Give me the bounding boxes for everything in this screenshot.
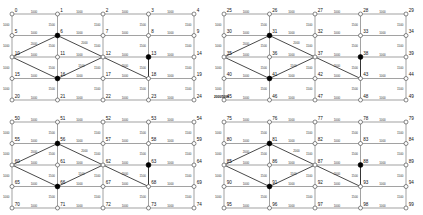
node-open[interactable] xyxy=(268,12,272,16)
node-open[interactable] xyxy=(222,185,226,189)
node-open[interactable] xyxy=(101,98,105,102)
node-open[interactable] xyxy=(192,55,196,59)
node-open[interactable] xyxy=(192,98,196,102)
node-open[interactable] xyxy=(313,142,317,146)
node-filled[interactable] xyxy=(146,55,151,60)
node-open[interactable] xyxy=(359,142,363,146)
node-open[interactable] xyxy=(192,163,196,167)
node-open[interactable] xyxy=(101,12,105,16)
node-open[interactable] xyxy=(56,55,60,59)
node-open[interactable] xyxy=(359,120,363,124)
node-open[interactable] xyxy=(56,120,60,124)
node-open[interactable] xyxy=(313,98,317,102)
node-open[interactable] xyxy=(313,206,317,210)
node-open[interactable] xyxy=(404,163,408,167)
node-open[interactable] xyxy=(359,206,363,210)
node-open[interactable] xyxy=(101,206,105,210)
node-open[interactable] xyxy=(268,206,272,210)
node-open[interactable] xyxy=(101,163,105,167)
node-open[interactable] xyxy=(147,34,151,38)
node-filled[interactable] xyxy=(55,76,60,81)
node-open[interactable] xyxy=(10,206,14,210)
node-open[interactable] xyxy=(10,98,14,102)
node-open[interactable] xyxy=(147,206,151,210)
node-open[interactable] xyxy=(404,120,408,124)
node-open[interactable] xyxy=(192,206,196,210)
node-open[interactable] xyxy=(404,55,408,59)
node-open[interactable] xyxy=(222,206,226,210)
node-open[interactable] xyxy=(359,34,363,38)
node-open[interactable] xyxy=(313,185,317,189)
node-open[interactable] xyxy=(313,12,317,16)
node-open[interactable] xyxy=(222,55,226,59)
node-open[interactable] xyxy=(147,185,151,189)
edge-capacity-label: 1500 xyxy=(140,195,147,199)
node-open[interactable] xyxy=(10,163,14,167)
node-open[interactable] xyxy=(10,34,14,38)
node-open[interactable] xyxy=(56,12,60,16)
node-open[interactable] xyxy=(10,142,14,146)
node-open[interactable] xyxy=(147,142,151,146)
node-open[interactable] xyxy=(10,55,14,59)
node-open[interactable] xyxy=(147,12,151,16)
node-open[interactable] xyxy=(313,55,317,59)
node-open[interactable] xyxy=(101,55,105,59)
node-open[interactable] xyxy=(192,34,196,38)
node-filled[interactable] xyxy=(267,76,272,81)
node-open[interactable] xyxy=(222,12,226,16)
node-open[interactable] xyxy=(10,185,14,189)
node-open[interactable] xyxy=(192,142,196,146)
node-open[interactable] xyxy=(222,120,226,124)
node-open[interactable] xyxy=(192,77,196,81)
node-filled[interactable] xyxy=(358,163,363,168)
node-open[interactable] xyxy=(404,98,408,102)
node-filled[interactable] xyxy=(55,184,60,189)
node-filled[interactable] xyxy=(55,33,60,38)
node-open[interactable] xyxy=(404,185,408,189)
node-filled[interactable] xyxy=(358,55,363,60)
node-open[interactable] xyxy=(56,98,60,102)
node-open[interactable] xyxy=(313,77,317,81)
node-open[interactable] xyxy=(101,185,105,189)
node-open[interactable] xyxy=(56,206,60,210)
node-open[interactable] xyxy=(222,163,226,167)
node-open[interactable] xyxy=(101,142,105,146)
node-open[interactable] xyxy=(359,98,363,102)
node-open[interactable] xyxy=(192,12,196,16)
node-open[interactable] xyxy=(404,34,408,38)
node-open[interactable] xyxy=(313,163,317,167)
node-open[interactable] xyxy=(268,55,272,59)
node-open[interactable] xyxy=(359,77,363,81)
node-open[interactable] xyxy=(192,185,196,189)
node-open[interactable] xyxy=(101,34,105,38)
node-filled[interactable] xyxy=(146,163,151,168)
node-open[interactable] xyxy=(404,77,408,81)
node-open[interactable] xyxy=(268,98,272,102)
node-open[interactable] xyxy=(101,77,105,81)
node-open[interactable] xyxy=(147,98,151,102)
node-open[interactable] xyxy=(147,120,151,124)
node-open[interactable] xyxy=(313,34,317,38)
node-open[interactable] xyxy=(404,142,408,146)
node-open[interactable] xyxy=(101,120,105,124)
node-open[interactable] xyxy=(359,12,363,16)
node-open[interactable] xyxy=(222,142,226,146)
node-open[interactable] xyxy=(404,206,408,210)
node-open[interactable] xyxy=(10,77,14,81)
node-open[interactable] xyxy=(56,163,60,167)
node-open[interactable] xyxy=(404,12,408,16)
node-open[interactable] xyxy=(359,185,363,189)
node-open[interactable] xyxy=(10,12,14,16)
node-filled[interactable] xyxy=(267,184,272,189)
node-filled[interactable] xyxy=(55,141,60,146)
node-filled[interactable] xyxy=(267,141,272,146)
node-open[interactable] xyxy=(268,120,272,124)
node-open[interactable] xyxy=(147,77,151,81)
node-open[interactable] xyxy=(192,120,196,124)
node-open[interactable] xyxy=(10,120,14,124)
node-open[interactable] xyxy=(222,34,226,38)
node-open[interactable] xyxy=(222,77,226,81)
node-filled[interactable] xyxy=(267,33,272,38)
node-open[interactable] xyxy=(313,120,317,124)
node-open[interactable] xyxy=(268,163,272,167)
